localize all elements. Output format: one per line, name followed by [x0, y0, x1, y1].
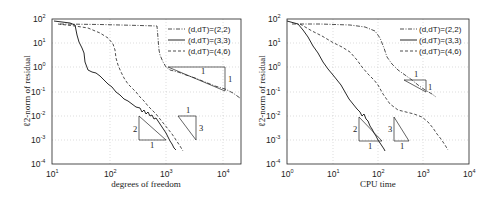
svg-text:10-4: 10-4: [266, 158, 280, 169]
left-x-ticks: 101 102 103 104: [46, 168, 230, 179]
svg-text:100: 100: [281, 168, 294, 179]
svg-text:101: 101: [46, 168, 59, 179]
triangle-rise-label: 3: [388, 124, 392, 134]
svg-text:102: 102: [104, 168, 117, 179]
svg-text:10-4: 10-4: [31, 158, 45, 169]
triangle-run-label: 1: [414, 69, 418, 79]
svg-text:103: 103: [417, 168, 430, 179]
svg-text:10-2: 10-2: [266, 110, 280, 121]
legend-entry-2-2: (d,dT)=(2,2): [419, 25, 462, 34]
left-series-3-3: [54, 21, 176, 150]
triangle-run-label: 1: [368, 141, 372, 151]
legend-entry-3-3: (d,dT)=(3,3): [188, 36, 231, 45]
triangle-run-label: 1: [150, 140, 154, 150]
legend-entry-3-3: (d,dT)=(3,3): [419, 36, 462, 45]
svg-text:103: 103: [160, 168, 173, 179]
left-y-ticks: 102 101 100 10-1 10-2 10-3 10-4: [31, 13, 46, 169]
svg-text:102: 102: [372, 168, 385, 179]
right-series-3-3: [287, 21, 385, 151]
left-plot: 1 1 2 1 1 3 (d,dT)=(2,2) (d,dT)=(3,3) (d…: [22, 13, 241, 189]
left-x-axis-label: degrees of freedom: [111, 179, 180, 189]
svg-text:10-1: 10-1: [31, 86, 45, 97]
triangle-run-label: 1: [186, 105, 190, 115]
triangle-rise-label: 2: [133, 124, 137, 134]
left-triangle-slope-1: 1 1: [168, 66, 232, 91]
svg-text:102: 102: [33, 13, 46, 24]
right-legend: (d,dT)=(2,2) (d,dT)=(3,3) (d,dT)=(4,6): [400, 25, 462, 56]
legend-entry-2-2: (d,dT)=(2,2): [188, 25, 231, 34]
svg-text:100: 100: [33, 61, 46, 72]
svg-text:10-2: 10-2: [31, 110, 45, 121]
svg-text:101: 101: [33, 37, 46, 48]
triangle-run-label: 1: [400, 141, 404, 151]
right-y-axis-label: ℓ2-norm of residual: [257, 55, 267, 127]
right-x-axis-label: CPU time: [360, 179, 396, 189]
svg-text:102: 102: [268, 13, 281, 24]
legend-entry-4-6: (d,dT)=(4,6): [419, 47, 462, 56]
right-plot: 1 1 2 1 3 1 (d,dT)=(2,2) (d,dT)=(3,3) (d…: [257, 13, 476, 189]
right-triangle-slope-2: 2 1: [353, 117, 382, 151]
triangle-rise-label: 3: [199, 123, 203, 133]
svg-text:10-3: 10-3: [31, 134, 45, 145]
svg-text:104: 104: [463, 168, 476, 179]
left-triangle-slope-2: 2 1: [133, 116, 166, 150]
right-x-ticks: 100 101 102 103 104: [281, 168, 476, 179]
triangle-rise-label: 1: [228, 74, 232, 84]
left-triangle-slope-3: 1 3: [178, 105, 203, 140]
svg-text:101: 101: [327, 168, 340, 179]
svg-text:101: 101: [268, 37, 281, 48]
triangle-rise-label: 1: [428, 82, 432, 92]
triangle-run-label: 1: [201, 66, 205, 76]
svg-text:104: 104: [217, 168, 230, 179]
svg-text:10-3: 10-3: [266, 134, 280, 145]
left-y-axis-label: ℓ2-norm of residual: [22, 55, 32, 127]
triangle-rise-label: 2: [353, 124, 357, 134]
right-triangle-slope-3: 3 1: [388, 117, 409, 151]
legend-entry-4-6: (d,dT)=(4,6): [188, 47, 231, 56]
svg-text:100: 100: [268, 61, 281, 72]
left-legend: (d,dT)=(2,2) (d,dT)=(3,3) (d,dT)=(4,6): [168, 25, 231, 56]
right-y-ticks: 102 101 100 10-1 10-2 10-3 10-4: [266, 13, 281, 169]
right-triangle-slope-1: 1 1: [404, 69, 432, 92]
figure: 1 1 2 1 1 3 (d,dT)=(2,2) (d,dT)=(3,3) (d…: [0, 0, 503, 199]
svg-text:10-1: 10-1: [266, 86, 280, 97]
